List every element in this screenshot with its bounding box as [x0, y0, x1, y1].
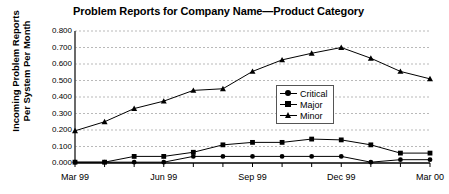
data-point-critical — [398, 157, 403, 162]
data-point-major — [102, 160, 107, 165]
data-point-critical — [132, 160, 137, 165]
legend-label-major: Major — [297, 100, 323, 110]
data-point-major — [221, 142, 226, 147]
x-tick-label: Sep 99 — [223, 172, 283, 182]
x-tick-label: Dec 99 — [311, 172, 371, 182]
data-point-major — [250, 140, 255, 145]
x-tick-label: Mar 99 — [45, 172, 105, 182]
legend-label-critical: Critical — [297, 89, 328, 99]
legend-item-major: Major — [280, 99, 328, 110]
chart-legend: Critical Major Minor — [276, 85, 334, 124]
series-line-minor — [75, 48, 430, 131]
legend-marker-circle-icon — [280, 88, 297, 99]
legend-item-minor: Minor — [280, 110, 328, 121]
legend-marker-square-icon — [280, 99, 297, 110]
x-tick-label: Mar 00 — [400, 172, 449, 182]
data-point-major — [161, 154, 166, 159]
data-point-critical — [250, 154, 255, 159]
data-point-major — [309, 137, 314, 142]
data-point-minor — [102, 119, 108, 124]
data-point-major — [428, 151, 433, 156]
data-point-critical — [191, 154, 196, 159]
legend-item-critical: Critical — [280, 88, 328, 99]
data-point-critical — [428, 157, 433, 162]
legend-label-minor: Minor — [297, 111, 323, 121]
data-point-major — [191, 150, 196, 155]
data-point-major — [280, 140, 285, 145]
data-point-critical — [339, 154, 344, 159]
data-point-critical — [280, 154, 285, 159]
data-point-critical — [368, 160, 373, 165]
data-point-major — [339, 138, 344, 143]
data-point-major — [368, 142, 373, 147]
data-point-major — [73, 160, 78, 165]
data-point-critical — [309, 154, 314, 159]
data-point-minor — [397, 68, 403, 73]
legend-marker-triangle-icon — [280, 110, 297, 121]
data-point-major — [132, 154, 137, 159]
data-point-critical — [161, 160, 166, 165]
data-point-major — [398, 151, 403, 156]
data-point-critical — [221, 154, 226, 159]
x-tick-label: Jun 99 — [134, 172, 194, 182]
x-axis-tick-labels: Mar 99Jun 99Sep 99Dec 99Mar 00 — [0, 172, 437, 188]
